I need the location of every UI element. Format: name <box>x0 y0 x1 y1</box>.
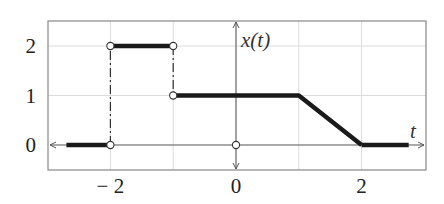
open-circle-marker <box>170 92 177 99</box>
x-tick-label: 0 <box>231 174 242 198</box>
y-axis-label: x(t) <box>240 28 270 52</box>
signal-plot: − 202 012 x(t) t <box>0 0 444 204</box>
y-tick-label: 1 <box>26 84 37 108</box>
open-circle-marker <box>107 42 114 49</box>
x-tick-labels: − 202 <box>97 174 367 198</box>
y-tick-label: 0 <box>26 133 37 157</box>
y-tick-labels: 012 <box>26 34 37 157</box>
open-circle-marker <box>170 42 177 49</box>
x-axis-label: t <box>410 119 417 143</box>
open-circle-marker <box>232 141 239 148</box>
x-tick-label: − 2 <box>97 174 125 198</box>
signal-segment <box>173 96 361 146</box>
y-tick-label: 2 <box>26 34 37 58</box>
open-circle-marker <box>107 141 114 148</box>
x-tick-label: 2 <box>356 174 367 198</box>
